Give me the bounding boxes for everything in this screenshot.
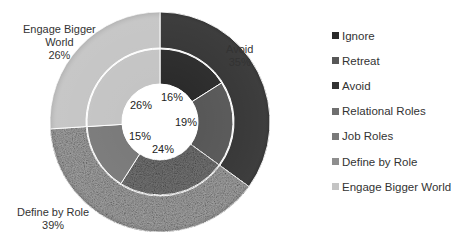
label-engage-inner-pct: 26% (130, 99, 152, 111)
label-retreat-pct: 19% (175, 116, 197, 128)
legend-label: Avoid (342, 80, 371, 92)
legend-item-relational-roles: Relational Roles (332, 99, 451, 124)
label-engage-name-line1: Engage Bigger (23, 23, 96, 36)
legend-swatch-avoid (332, 82, 339, 89)
label-define-by-role: Define by Role 39% (17, 206, 89, 232)
legend-label: Ignore (342, 30, 375, 42)
label-avoid: Avoid 35% (226, 43, 253, 69)
label-engage-name-line2: World (23, 36, 96, 49)
label-avoid-pct: 35% (226, 56, 253, 69)
legend-item-define-by-role: Define by Role (332, 149, 451, 174)
legend-item-avoid: Avoid (332, 73, 451, 98)
legend-item-retreat: Retreat (332, 48, 451, 73)
legend-swatch-job-roles (332, 133, 339, 140)
legend-label: Job Roles (342, 130, 393, 142)
legend-item-engage-bigger-world: Engage Bigger World (332, 174, 451, 199)
legend-item-ignore: Ignore (332, 23, 451, 48)
legend-label: Define by Role (342, 156, 417, 168)
label-relational-pct: 24% (152, 143, 174, 155)
label-job-pct: 15% (129, 130, 151, 142)
label-engage-bigger-world: Engage Bigger World 26% (23, 23, 96, 62)
legend-label: Relational Roles (342, 105, 426, 117)
label-engage-pct: 26% (23, 49, 96, 62)
legend-swatch-ignore (332, 32, 339, 39)
legend-swatch-retreat (332, 57, 339, 64)
legend: Ignore Retreat Avoid Relational Roles Jo… (332, 23, 451, 199)
label-avoid-name: Avoid (226, 43, 253, 56)
legend-label: Retreat (342, 55, 380, 67)
label-define-name: Define by Role (17, 206, 89, 219)
label-define-pct: 39% (17, 219, 89, 232)
legend-swatch-relational-roles (332, 108, 339, 115)
legend-swatch-define-by-role (332, 158, 339, 165)
legend-item-job-roles: Job Roles (332, 124, 451, 149)
legend-swatch-engage-bigger-world (332, 183, 339, 190)
legend-label: Engage Bigger World (342, 181, 451, 193)
label-ignore-pct: 16% (161, 91, 183, 103)
